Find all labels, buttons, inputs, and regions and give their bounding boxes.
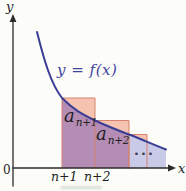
y-axis-label: y bbox=[6, 0, 13, 13]
y-axis-arrowhead bbox=[10, 14, 17, 22]
term-label-a-n-plus-1-sub: n+1 bbox=[76, 116, 97, 128]
term-label-a-n-plus-2-base: a bbox=[96, 123, 107, 144]
ellipsis-label: ... bbox=[134, 144, 155, 157]
x-axis-label: x bbox=[178, 162, 185, 175]
term-label-a-n-plus-1: an+1 bbox=[64, 107, 97, 128]
term-label-a-n-plus-2-sub: n+2 bbox=[108, 134, 129, 146]
origin-label: 0 bbox=[3, 164, 11, 176]
term-label-a-n-plus-1-base: a bbox=[64, 105, 75, 126]
cropped-caption-smudge bbox=[60, 186, 102, 189]
figure-canvas bbox=[0, 0, 186, 191]
curve-equation-label: y = f(x) bbox=[57, 63, 117, 78]
tick-label-n-plus-2: n+2 bbox=[84, 171, 110, 184]
x-axis-arrowhead bbox=[168, 165, 176, 172]
tick-label-n-plus-1: n+1 bbox=[51, 171, 77, 184]
integral-test-diagram: y 0 x y = f(x) an+1 an+2 ... n+1 n+2 bbox=[0, 0, 186, 191]
term-label-a-n-plus-2: an+2 bbox=[96, 125, 129, 146]
